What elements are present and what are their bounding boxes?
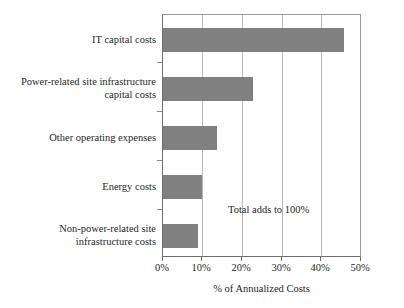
category-label-energy-costs: Energy costs xyxy=(0,180,156,193)
x-axis-tick-label: 40% xyxy=(300,262,340,273)
category-label-it-capital-costs: IT capital costs xyxy=(0,33,156,46)
x-axis-title: % of Annualized Costs xyxy=(162,283,361,294)
bar-chart: IT capital costs Power-related site infr… xyxy=(0,0,404,308)
x-axis-tick-label: 20% xyxy=(221,262,261,273)
bar-row xyxy=(163,126,217,150)
y-axis-tick xyxy=(157,160,162,161)
bar-row xyxy=(163,175,202,199)
bar-it-capital-costs xyxy=(163,28,344,52)
y-axis-tick xyxy=(157,209,162,210)
x-axis-tick xyxy=(201,257,202,261)
category-label-line: capital costs xyxy=(0,88,156,101)
category-label-line: Energy costs xyxy=(0,180,156,193)
category-label-line: IT capital costs xyxy=(0,33,156,46)
x-axis-tick xyxy=(162,257,163,261)
category-label-other-operating-expenses: Other operating expenses xyxy=(0,131,156,144)
x-axis-tick xyxy=(360,257,361,261)
bar-energy-costs xyxy=(163,175,202,199)
bar-power-related-site-infrastructure-capital-costs xyxy=(163,77,253,101)
x-axis-tick xyxy=(281,257,282,261)
bar-other-operating-expenses xyxy=(163,126,217,150)
bar-row xyxy=(163,77,253,101)
category-label-power-related-site-infrastructure-capital-costs: Power-related site infrastructure capita… xyxy=(0,75,156,101)
x-axis-tick-label: 50% xyxy=(340,262,380,273)
category-label-non-power-related-site-infrastructure-costs: Non-power-related site infrastructure co… xyxy=(0,222,156,248)
bar-row xyxy=(163,224,198,248)
x-axis-tick xyxy=(320,257,321,261)
category-label-line: Other operating expenses xyxy=(0,131,156,144)
category-label-line: Non-power-related site xyxy=(0,222,156,235)
chart-annotation-total: Total adds to 100% xyxy=(228,204,309,215)
x-axis-tick-label: 10% xyxy=(181,262,221,273)
y-axis-tick xyxy=(157,111,162,112)
y-axis-tick xyxy=(157,62,162,63)
bar-row xyxy=(163,28,344,52)
category-label-line: Power-related site infrastructure xyxy=(0,75,156,88)
x-axis-tick-label: 30% xyxy=(261,262,301,273)
x-axis-tick-label: 0% xyxy=(142,262,182,273)
category-label-line: infrastructure costs xyxy=(0,235,156,248)
bar-non-power-related-site-infrastructure-costs xyxy=(163,224,198,248)
x-axis-tick xyxy=(241,257,242,261)
